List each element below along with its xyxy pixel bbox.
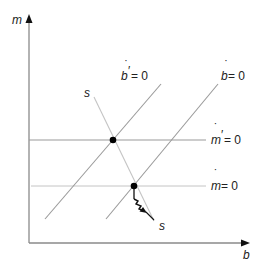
svg-text:˙: ˙ [214,167,218,181]
svg-text:= 0: = 0 [131,69,148,83]
x-axis-arrow-icon [241,240,250,247]
x-axis-label: b [243,248,250,262]
m-prime-dot-label: m ˙ ′ = 0 [211,121,241,147]
new-equilibrium-point [110,137,117,144]
svg-text:= 0: = 0 [221,179,238,193]
y-axis-label: m [12,13,22,27]
svg-text:m: m [211,133,221,147]
svg-text:= 0: = 0 [228,69,245,83]
svg-text:˙: ˙ [214,121,218,135]
saddle-path-label-bottom: s [159,219,165,233]
phase-diagram: m b s s b ˙ ′ = 0 b ˙ = 0 m ˙ ′ = 0 [0,0,262,265]
y-axis-arrow-icon [26,14,33,23]
svg-text:= 0: = 0 [224,133,241,147]
m-dot-label: m ˙ = 0 [211,167,238,193]
initial-equilibrium-point [131,183,138,190]
svg-text:m: m [211,179,221,193]
saddle-path-line [94,97,154,221]
b-dot-zero-line [106,84,218,219]
saddle-path-label-top: s [84,86,90,100]
b-dot-label: b ˙ = 0 [221,58,245,83]
b-prime-dot-label: b ˙ ′ = 0 [121,58,148,83]
